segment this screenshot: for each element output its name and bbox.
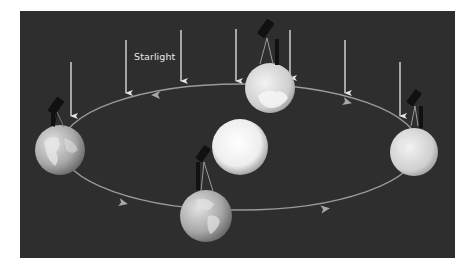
telescope-left-icon xyxy=(48,97,64,127)
earth-left xyxy=(35,125,85,175)
telescope-right-icon xyxy=(407,90,423,128)
parallax-diagram xyxy=(0,0,471,275)
orbit-arrow-icon xyxy=(342,97,353,107)
earth-right xyxy=(390,128,438,176)
telescope-top-icon xyxy=(258,19,279,65)
starlight-label: Starlight xyxy=(134,51,175,62)
orbit-arrow-icon xyxy=(320,204,330,213)
sun xyxy=(212,119,268,175)
orbit-arrow-icon xyxy=(118,198,128,208)
earth-bottom xyxy=(180,190,232,242)
telescope-bottom-icon xyxy=(196,146,213,191)
earth-top xyxy=(245,63,295,113)
